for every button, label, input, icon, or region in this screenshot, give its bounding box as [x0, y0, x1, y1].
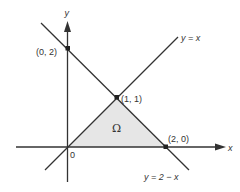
point-2-0-label: (2, 0) — [168, 134, 189, 144]
point-0-2-marker — [66, 46, 71, 51]
x-axis-arrow-icon — [215, 144, 226, 151]
point-1-1-label: (1, 1) — [121, 94, 142, 104]
point-1-1-marker — [115, 95, 120, 100]
point-0-2-label: (0, 2) — [36, 47, 57, 57]
region-omega-label: Ω — [112, 122, 121, 135]
origin-label: 0 — [70, 150, 75, 160]
line-y-equals-x — [45, 37, 178, 170]
point-2-0-marker — [164, 145, 169, 150]
region-diagram: y x 0 (0, 2) (1, 1) (2, 0) y = x y = 2 −… — [0, 0, 240, 192]
x-axis-label: x — [227, 143, 233, 153]
line-y-equals-2-minus-x-label: y = 2 − x — [143, 172, 179, 182]
y-axis-label: y — [64, 8, 70, 18]
y-axis-arrow-icon — [64, 21, 71, 32]
line-y-equals-x-label: y = x — [180, 33, 201, 43]
